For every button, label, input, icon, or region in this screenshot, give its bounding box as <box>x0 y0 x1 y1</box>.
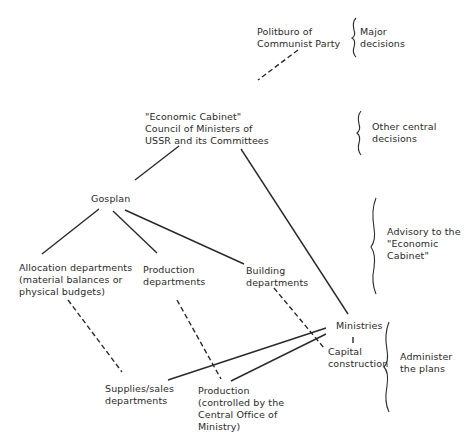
level-label-advisory: Advisory to the "Economic Cabinet" <box>387 226 461 262</box>
node-capital-construction: Capital construction <box>328 346 388 370</box>
node-economic-cabinet: "Economic Cabinet" Council of Ministers … <box>145 111 269 147</box>
node-supplies-sales-departments: Supplies/sales departments <box>105 383 174 407</box>
edge-allocation-supplies <box>68 300 122 372</box>
level-label-administer: Administer the plans <box>400 351 452 375</box>
node-production-departments: Production departments <box>143 264 205 288</box>
node-ministries: Ministries <box>336 320 383 332</box>
edge-ministries-supplies <box>168 328 326 380</box>
node-production-controlled: Production (controlled by the Central Of… <box>198 385 284 433</box>
brace-major-decisions <box>352 18 356 57</box>
edge-gosplan-building-depts <box>125 210 244 264</box>
node-politburo: Politburo of Communist Party <box>257 26 340 50</box>
edge-cabinet-gosplan <box>135 146 179 180</box>
level-label-other-central: Other central decisions <box>372 121 436 145</box>
brace-advisory <box>371 198 376 294</box>
edge-politburo-cabinet <box>258 50 298 80</box>
diagram-connectors <box>0 0 464 442</box>
node-allocation-departments: Allocation departments (material balance… <box>19 262 132 298</box>
node-gosplan: Gosplan <box>91 193 130 205</box>
edge-gosplan-production-depts <box>113 211 157 253</box>
brace-other-central <box>357 111 361 155</box>
edge-production-depts-production <box>177 300 221 379</box>
edge-gosplan-allocation <box>42 209 99 254</box>
node-building-departments: Building departments <box>246 265 308 289</box>
level-label-major-decisions: Major decisions <box>360 26 405 50</box>
edge-ministries-production <box>231 334 326 381</box>
edge-cabinet-ministries <box>241 149 348 314</box>
